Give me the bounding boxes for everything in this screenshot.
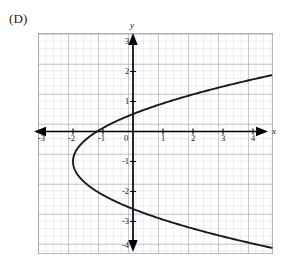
x-tick-label-2: 2: [191, 133, 195, 143]
y-tick-label-3: 3: [125, 36, 129, 46]
y-tick-label-1: 1: [125, 96, 129, 106]
x-tick-label--3: -3: [38, 133, 45, 143]
y-tick-label--4: -4: [122, 240, 129, 250]
x-tick-label-4: 4: [251, 133, 255, 143]
x-axis-label: x: [272, 126, 276, 136]
x-tick-label--1: -1: [98, 133, 105, 143]
grid-svg: [38, 33, 273, 254]
x-tick-label-1: 1: [161, 133, 165, 143]
x-tick-label-0: 0: [124, 133, 128, 143]
x-tick-label-3: 3: [221, 133, 225, 143]
graph-plot-area: [38, 33, 273, 254]
figure-root: (D): [0, 0, 293, 266]
y-tick-label--3: -3: [122, 216, 129, 226]
choice-label: (D): [9, 11, 28, 27]
y-tick-label-2: 2: [125, 66, 129, 76]
y-axis-label: y: [130, 20, 134, 30]
x-tick-label--2: -2: [68, 133, 75, 143]
y-tick-label--1: -1: [122, 156, 129, 166]
major-gridlines: [38, 33, 273, 254]
y-tick-label--2: -2: [122, 186, 129, 196]
